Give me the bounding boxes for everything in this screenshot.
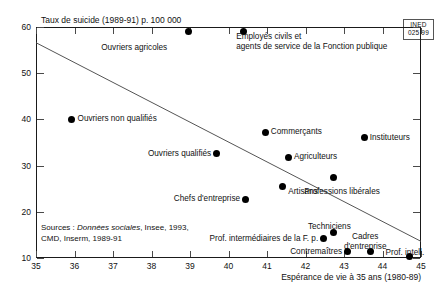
x-axis-tick — [113, 251, 114, 257]
data-point-label-line: Prof. intermédiaires de la F. p. — [209, 234, 318, 244]
data-point[interactable] — [185, 28, 192, 35]
y-axis-tick — [37, 119, 44, 120]
y-axis-tick-label: 20 — [22, 207, 31, 217]
data-point-label-line: Instituteurs — [370, 133, 410, 143]
y-axis-tick — [413, 119, 420, 120]
data-point-label: Ouvriers agricoles — [101, 43, 167, 53]
y-axis-tick — [413, 27, 420, 28]
data-point-label: Commerçants — [271, 127, 322, 137]
source-note-line2: CMD, Inserm, 1989-91 — [41, 233, 189, 244]
data-point-label: Chefs d'entreprise — [174, 194, 240, 204]
x-axis-tick-label: 39 — [185, 261, 194, 271]
x-axis-tick-label: 44 — [378, 261, 387, 271]
data-point-label-line: Cadres — [344, 232, 387, 242]
data-point-label: Techniciens — [308, 222, 351, 232]
source-note: Sources : Données sociales, Insee, 1993,… — [41, 222, 189, 244]
data-point-label-line: Techniciens — [308, 222, 351, 232]
y-axis-tick-label: 30 — [22, 161, 31, 171]
data-point-label: Ouvriers qualifiés — [148, 149, 211, 159]
source-prefix: Sources : — [41, 223, 77, 232]
y-axis-tick-label: 60 — [22, 22, 31, 32]
x-axis-tick-label: 41 — [262, 261, 271, 271]
data-point-label-line: Employés civils et — [236, 32, 387, 42]
x-axis-tick-label: 43 — [339, 261, 348, 271]
data-point-label-line: agents de service de la Fonction publiqu… — [236, 42, 387, 52]
data-point-label-line: Ouvriers qualifiés — [148, 149, 211, 159]
y-axis-tick — [37, 27, 44, 28]
data-point[interactable] — [361, 134, 368, 141]
x-axis-tick — [75, 251, 76, 257]
x-axis-tick — [190, 251, 191, 257]
x-axis-tick — [36, 28, 37, 34]
y-axis-title: Taux de suicide (1989-91) p. 100 000 — [41, 15, 181, 25]
data-point-label-line: Chefs d'entreprise — [174, 194, 240, 204]
data-point-label: Ouvriers non qualifiés — [78, 114, 157, 124]
data-point-label: Prof. intermédiaires de la F. p. — [209, 234, 318, 244]
data-point-label-line: Artisans — [288, 187, 318, 197]
x-axis-tick-label: 38 — [147, 261, 156, 271]
data-point-label-line: Agriculteurs — [294, 152, 337, 162]
x-axis-title: Espérance de vie à 35 ans (1980-89) — [281, 272, 421, 282]
x-axis-tick-label: 36 — [70, 261, 79, 271]
x-axis-tick — [229, 251, 230, 257]
data-point-label-line: Ouvriers non qualifiés — [78, 114, 157, 124]
y-axis-tick — [413, 73, 420, 74]
source-italic-title: Données sociales — [77, 223, 140, 232]
x-axis-tick — [75, 28, 76, 34]
y-axis-tick — [37, 258, 44, 259]
y-axis-tick — [413, 166, 420, 167]
y-axis-tick — [413, 212, 420, 213]
x-axis-tick — [36, 251, 37, 257]
x-axis-tick-label: 45 — [416, 261, 425, 271]
y-axis-tick-label: 10 — [22, 253, 31, 263]
x-axis-tick — [421, 28, 422, 34]
x-axis-tick-label: 35 — [31, 261, 40, 271]
x-axis-tick — [152, 28, 153, 34]
data-point-label: Instituteurs — [370, 133, 410, 143]
y-axis-tick — [37, 166, 44, 167]
data-point-label: Employés civils etagents de service de l… — [236, 32, 387, 52]
x-axis-tick — [152, 251, 153, 257]
data-point-label: Prof. intell. — [385, 248, 424, 258]
data-point-label: Contremaîtres — [290, 247, 342, 257]
data-point-label-line: Commerçants — [271, 127, 322, 137]
y-axis-tick-label: 40 — [22, 114, 31, 124]
y-axis-tick-label: 50 — [22, 68, 31, 78]
x-axis-tick — [267, 251, 268, 257]
data-point-label-line: Contremaîtres — [290, 247, 342, 257]
source-suffix: , Insee, 1993, — [140, 223, 188, 232]
data-point[interactable] — [285, 154, 292, 161]
source-note-line1: Sources : Données sociales, Insee, 1993, — [41, 222, 189, 233]
x-axis-tick-label: 42 — [301, 261, 310, 271]
data-point-label: Artisans — [288, 187, 318, 197]
data-point[interactable] — [330, 174, 337, 181]
data-point-label: Agriculteurs — [294, 152, 337, 162]
suicide-rate-life-expectancy-scatter-chart: Taux de suicide (1989-91) p. 100 000 INE… — [0, 0, 440, 297]
data-point[interactable] — [262, 129, 269, 136]
data-point-label-line: Ouvriers agricoles — [101, 43, 167, 53]
x-axis-tick-label: 40 — [224, 261, 233, 271]
x-axis-tick-label: 37 — [108, 261, 117, 271]
x-axis-tick — [229, 28, 230, 34]
y-axis-tick — [37, 73, 44, 74]
data-point-label-line: Prof. intell. — [385, 248, 424, 258]
x-axis-tick — [113, 28, 114, 34]
y-axis-tick — [37, 212, 44, 213]
